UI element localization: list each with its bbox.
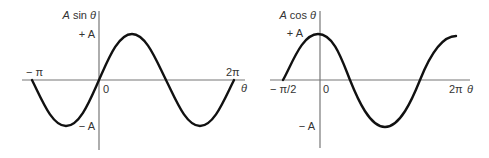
sine-tick-minus-a: − A bbox=[79, 120, 96, 132]
sine-y-axis-label: A sin θ bbox=[62, 9, 97, 21]
cosine-y-axis-label: A cos θ bbox=[278, 9, 316, 21]
sine-graph: A sin θ + A − A 0 − π 2π θ bbox=[22, 9, 247, 150]
sine-x-axis-label: θ bbox=[241, 82, 247, 94]
cosine-origin-label: 0 bbox=[323, 83, 329, 95]
sine-x-right-label: 2π bbox=[226, 66, 240, 78]
cosine-x-left-label: − π/2 bbox=[270, 83, 296, 95]
sine-cosine-diagram: A sin θ + A − A 0 − π 2π θ A cos θ + A −… bbox=[0, 0, 489, 158]
cosine-x-right-label: 2π bbox=[449, 83, 463, 95]
cosine-tick-plus-a: + A bbox=[287, 27, 304, 39]
cosine-tick-minus-a: − A bbox=[299, 120, 316, 132]
cosine-graph: A cos θ + A − A 0 − π/2 2π θ bbox=[270, 9, 473, 148]
sine-x-left-label: − π bbox=[26, 66, 43, 78]
cosine-x-axis-label: θ bbox=[467, 83, 473, 95]
sine-origin-label: 0 bbox=[103, 83, 109, 95]
sine-tick-plus-a: + A bbox=[79, 28, 96, 40]
